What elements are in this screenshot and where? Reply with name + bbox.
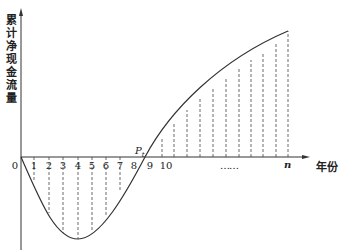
y-axis-arrow-icon xyxy=(19,8,23,16)
tick-5: 5 xyxy=(89,160,95,171)
positive-dashes xyxy=(162,31,288,157)
tick-8: 8 xyxy=(131,160,137,171)
x-axis-arrow-icon xyxy=(302,155,310,159)
tick-3: 3 xyxy=(60,160,66,171)
tick-7: 7 xyxy=(117,160,123,171)
tick-origin: 0 xyxy=(12,160,18,171)
cash-flow-chart xyxy=(0,0,344,251)
cumulative-cash-flow-curve xyxy=(21,31,288,239)
y-axis-label: 累计净现金流量 xyxy=(4,14,18,105)
tick-4: 4 xyxy=(75,160,81,171)
ellipsis: …… xyxy=(220,160,238,171)
tick-1: 1 xyxy=(31,160,37,171)
tick-2: 2 xyxy=(46,160,52,171)
tick-6: 6 xyxy=(103,160,109,171)
tick-10: 10 xyxy=(160,160,173,171)
point-pt-label: Pt xyxy=(135,145,145,159)
tick-n: n xyxy=(284,159,291,170)
tick-9: 9 xyxy=(147,160,153,171)
x-axis-label: 年份 xyxy=(316,158,338,174)
